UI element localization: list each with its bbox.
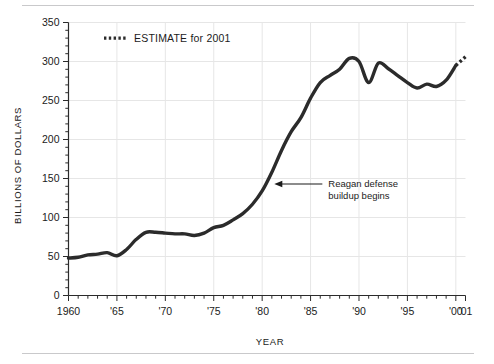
- annotation-group: Reagan defensebuildup begins: [274, 178, 398, 201]
- legend-label: ESTIMATE for 2001: [134, 32, 231, 44]
- x-tick-label: '01: [459, 305, 473, 317]
- line-chart-plot: 050100150200250300350 1960'65'70'75'80'8…: [0, 0, 494, 364]
- y-tick-label: 350: [42, 16, 60, 28]
- y-tick-labels-group: 050100150200250300350: [42, 16, 60, 301]
- y-tick-label: 0: [54, 289, 60, 301]
- x-tick-label: '95: [401, 305, 415, 317]
- x-tick-labels-group: 1960'65'70'75'80'85'90'95'00'01: [57, 305, 473, 317]
- legend-group: ESTIMATE for 2001: [104, 32, 231, 44]
- y-tick-label: 250: [42, 94, 60, 106]
- x-tick-label: '70: [158, 305, 172, 317]
- x-tick-label: '65: [110, 305, 124, 317]
- y-tick-label: 100: [42, 211, 60, 223]
- x-tick-label: '85: [304, 305, 318, 317]
- gridlines-group: [69, 23, 466, 296]
- major-ticks-group: [63, 23, 466, 302]
- figure-container: BILLIONS OF DOLLARS YEAR 050100150200250…: [0, 0, 494, 364]
- annotation-arrowhead: [274, 181, 282, 187]
- y-tick-label: 150: [42, 172, 60, 184]
- x-tick-label: '80: [255, 305, 269, 317]
- annotation-text-line-1: Reagan defense: [328, 178, 398, 189]
- data-series-group: [69, 57, 466, 258]
- axis-lines-group: [69, 23, 466, 296]
- y-tick-label: 200: [42, 133, 60, 145]
- x-tick-label: '75: [207, 305, 221, 317]
- y-tick-label: 50: [48, 250, 60, 262]
- y-tick-label: 300: [42, 55, 60, 67]
- x-tick-label: 1960: [57, 305, 81, 317]
- x-tick-label: '90: [352, 305, 366, 317]
- annotation-text-line-2: buildup begins: [328, 190, 390, 201]
